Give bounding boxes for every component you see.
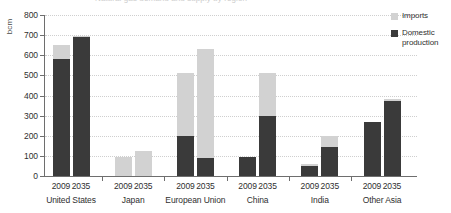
bar-segment-imports (177, 73, 194, 136)
chart-screenshot: Natural gas demand and supply by region … (0, 0, 451, 213)
y-tick-label: 700 (24, 30, 38, 40)
chart-title-cropped: Natural gas demand and supply by region (0, 0, 451, 5)
bar-segment-imports (197, 49, 214, 158)
x-axis-year-label: 2035 (379, 181, 405, 191)
bar-united-states-2009 (53, 45, 70, 176)
bar-segment-domestic-production (259, 116, 276, 176)
bar-segment-domestic-production (73, 37, 90, 176)
x-axis-group-label: Other Asia (327, 195, 437, 205)
bar-european-union-2035 (197, 49, 214, 176)
x-axis-year-label: 2035 (317, 181, 343, 191)
x-axis-year-label: 2035 (130, 181, 156, 191)
bar-segment-imports (115, 157, 132, 176)
y-tick-label: 100 (24, 151, 38, 161)
chart-legend: ImportsDomesticproduction (391, 11, 451, 55)
bar-segment-domestic-production (301, 166, 318, 176)
bar-european-union-2009 (177, 73, 194, 176)
bar-segment-imports (301, 164, 318, 165)
bar-segment-domestic-production (177, 136, 194, 176)
y-tick-label: 800 (24, 10, 38, 20)
plot-area: 0100200300400500600700800 (44, 15, 417, 177)
legend-swatch (391, 30, 398, 37)
bar-india-2035 (321, 136, 338, 176)
y-tick-label: 500 (24, 70, 38, 80)
bar-india-2009 (301, 164, 318, 176)
plot-frame: 0100200300400500600700800 (44, 15, 417, 177)
bar-other-asia-2009 (364, 122, 381, 176)
legend-label: Domesticproduction (402, 28, 451, 48)
legend-item-imports[interactable]: Imports (391, 11, 451, 21)
bar-segment-imports (259, 73, 276, 116)
x-axis-year-label: 2035 (192, 181, 218, 191)
bar-segment-domestic-production (384, 101, 401, 176)
bar-segment-imports (53, 45, 70, 58)
y-tick-label: 200 (24, 131, 38, 141)
bar-other-asia-2035 (384, 99, 401, 176)
y-tick-label: 300 (24, 111, 38, 121)
bar-china-2035 (259, 73, 276, 176)
legend-item-domestic-production[interactable]: Domesticproduction (391, 28, 451, 48)
x-axis-year-label: 2035 (255, 181, 281, 191)
bar-segment-domestic-production (53, 59, 70, 176)
y-axis-unit-label: bcm (5, 12, 14, 42)
bar-segment-domestic-production (239, 157, 256, 176)
bar-japan-2009 (115, 157, 132, 176)
bar-segment-domestic-production (321, 147, 338, 176)
bar-china-2009 (239, 157, 256, 176)
y-tick-label: 0 (33, 171, 38, 181)
bar-united-states-2035 (73, 36, 90, 176)
y-tick-label: 600 (24, 50, 38, 60)
chart-title-text: Natural gas demand and supply by region (95, 0, 247, 3)
legend-label: Imports (402, 11, 451, 21)
bar-segment-imports (135, 151, 152, 176)
bar-segment-domestic-production (197, 158, 214, 177)
bar-segment-imports (384, 99, 401, 101)
x-axis-labels: 20092035United States20092035Japan200920… (44, 181, 417, 211)
bar-segment-domestic-production (364, 122, 381, 176)
bar-segment-imports (321, 136, 338, 147)
x-axis-year-label: 2035 (68, 181, 94, 191)
y-tick-label: 400 (24, 91, 38, 101)
bars-layer (44, 15, 417, 177)
bar-segment-imports (73, 36, 90, 37)
bar-japan-2035 (135, 151, 152, 176)
legend-swatch (391, 13, 398, 20)
